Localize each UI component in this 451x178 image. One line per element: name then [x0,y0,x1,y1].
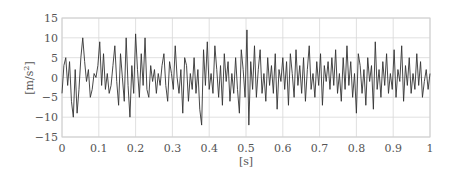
x-tick-label: 0.1 [90,142,108,155]
y-tick-label: 0 [51,72,58,85]
y-tick-label: 5 [51,52,58,65]
y-tick-label: −10 [35,111,58,124]
x-tick-label: 0.2 [127,142,145,155]
y-tick-label: −15 [35,131,58,144]
x-axis-ticks: 00.10.20.30.40.50.60.70.80.91 [59,142,434,155]
x-tick-label: 0.9 [384,142,402,155]
x-tick-label: 0.8 [348,142,366,155]
x-tick-label: 0.4 [200,142,218,155]
y-tick-label: 10 [44,32,58,45]
x-tick-label: 0 [59,142,66,155]
x-tick-label: 0.6 [274,142,292,155]
acceleration-line-chart: 151050−5−10−15 00.10.20.30.40.50.60.70.8… [0,0,451,178]
x-axis-label: [s] [239,155,253,168]
x-tick-label: 0.5 [237,142,255,155]
x-tick-label: 0.7 [311,142,329,155]
y-axis-label: [m/s2] [22,61,36,94]
x-tick-label: 1 [427,142,434,155]
y-axis-ticks: 151050−5−10−15 [35,12,58,144]
y-tick-label: −5 [42,91,58,104]
y-tick-label: 15 [44,12,58,25]
x-tick-label: 0.3 [164,142,182,155]
